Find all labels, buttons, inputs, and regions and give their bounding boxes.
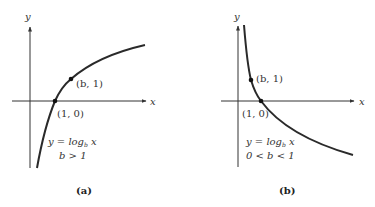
caption-b: (b) bbox=[279, 185, 295, 196]
formula-var: x bbox=[88, 136, 97, 147]
point-1-0 bbox=[259, 99, 264, 104]
log-curve-increasing bbox=[37, 45, 145, 168]
formula-prefix: y = log bbox=[245, 136, 282, 147]
caption-a: (a) bbox=[76, 185, 92, 196]
x-axis-label: x bbox=[359, 96, 365, 107]
point-1-0-label: (1, 0) bbox=[242, 108, 269, 119]
point-1-0-label: (1, 0) bbox=[57, 108, 84, 119]
y-axis-label: y bbox=[233, 11, 240, 22]
y-axis-label: y bbox=[24, 11, 31, 22]
point-b-1-label: (b, 1) bbox=[256, 73, 283, 84]
formula-var: x bbox=[286, 136, 295, 147]
point-b-1 bbox=[249, 78, 254, 83]
formula: y = logb x bbox=[47, 136, 97, 148]
condition: 0 < b < 1 bbox=[246, 150, 295, 161]
panel-b: y x (b, 1) (1, 0) y = logb x 0 < b < 1 (… bbox=[221, 11, 365, 196]
x-axis-label: x bbox=[150, 96, 156, 107]
panel-a: y x (b, 1) (1, 0) y = logb x b > 1 (a) bbox=[12, 11, 156, 196]
point-b-1 bbox=[69, 77, 74, 82]
point-b-1-label: (b, 1) bbox=[76, 78, 103, 89]
formula-prefix: y = log bbox=[47, 136, 84, 147]
formula: y = logb x bbox=[245, 136, 295, 148]
condition: b > 1 bbox=[59, 150, 87, 161]
point-1-0 bbox=[53, 99, 58, 104]
log-graphs-figure: y x (b, 1) (1, 0) y = logb x b > 1 (a) y… bbox=[0, 0, 375, 207]
